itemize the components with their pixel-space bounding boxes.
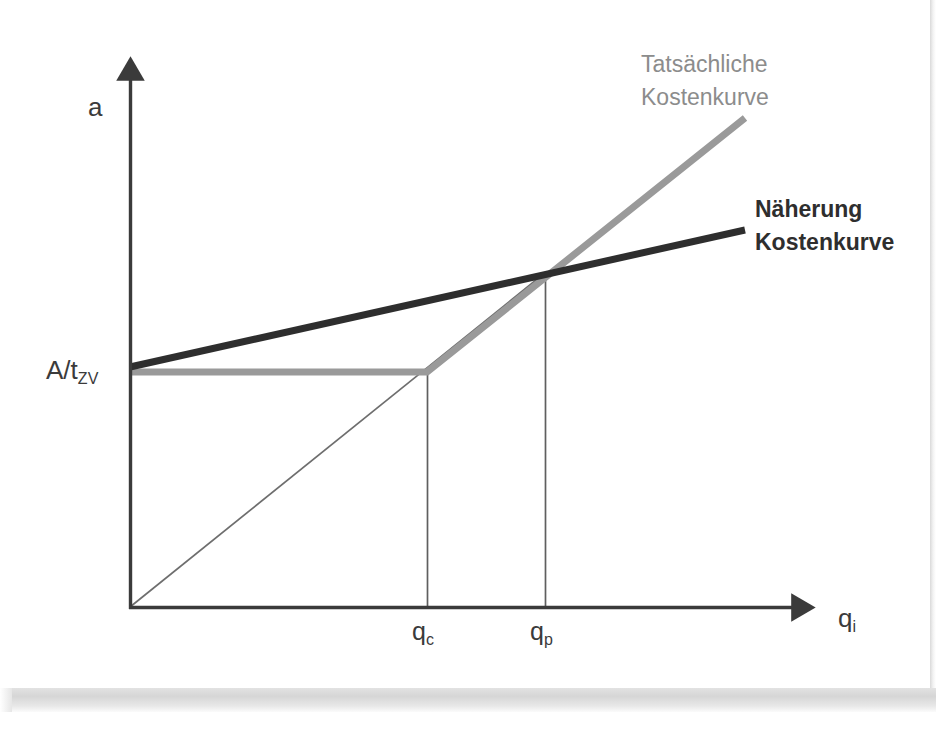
y-axis-label-text: a xyxy=(88,92,102,122)
y-intercept-label: A/tZV xyxy=(46,357,99,387)
y-axis-label: a xyxy=(88,94,102,120)
approximation-cost-curve xyxy=(130,230,745,367)
actual-cost-curve xyxy=(130,118,745,372)
annotation-actual-curve: Tatsächliche Kostenkurve xyxy=(641,48,769,115)
cost-curve-plot xyxy=(0,0,948,730)
tick-qp-base: q xyxy=(530,617,544,645)
y-intercept-sub: ZV xyxy=(78,370,99,387)
y-intercept-base: A/t xyxy=(46,355,78,385)
annotation-actual-line2: Kostenkurve xyxy=(641,81,769,114)
page-edge-right xyxy=(930,0,936,690)
annotation-approx-curve: Näherung Kostenkurve xyxy=(755,193,894,260)
tick-label-qc: qc xyxy=(412,619,434,648)
tick-qp-sub: p xyxy=(544,631,553,648)
figure-canvas: a qi A/tZV qc qp Tatsächliche Kostenkurv… xyxy=(0,0,948,730)
page-edge-bottom xyxy=(8,688,936,712)
tick-qc-base: q xyxy=(412,617,426,645)
x-axis-label: qi xyxy=(838,605,856,635)
annotation-approx-line1: Näherung xyxy=(755,193,894,226)
annotation-approx-line2: Kostenkurve xyxy=(755,226,894,259)
tick-qc-sub: c xyxy=(426,631,434,648)
x-axis-label-base: q xyxy=(838,603,852,633)
annotation-actual-line1: Tatsächliche xyxy=(641,48,769,81)
page-edge-bottom-cap xyxy=(0,688,12,712)
tick-label-qp: qp xyxy=(530,619,553,648)
x-axis-label-sub: i xyxy=(852,618,856,635)
